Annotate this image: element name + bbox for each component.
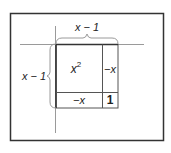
- left-dimension-label: x − 1: [21, 70, 46, 82]
- top-dimension-label: x − 1: [74, 21, 99, 33]
- cell-bottom-right: 1: [107, 93, 114, 107]
- cell-bottom-left: −x: [73, 94, 85, 106]
- cell-top-right: −x: [104, 63, 116, 75]
- area-model-diagram: x − 1 x − 1 x2 −x −x 1: [0, 0, 171, 153]
